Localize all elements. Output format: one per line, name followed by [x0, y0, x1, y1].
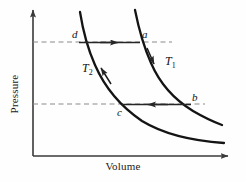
- diagram-canvas: [0, 0, 246, 182]
- state-point-label-d: d: [72, 28, 78, 40]
- y-axis-label: Pressure: [8, 54, 20, 134]
- isotherm-label-T2-subscript: 2: [89, 68, 93, 77]
- x-axis-label: Volume: [0, 160, 246, 172]
- isotherm-label-T1-text: T: [165, 54, 172, 68]
- state-point-label-a: a: [142, 28, 148, 40]
- isotherm-label-T1-subscript: 1: [172, 61, 176, 70]
- state-point-label-c: c: [117, 106, 122, 118]
- isotherm-curve-T2: [80, 12, 224, 143]
- pressure-volume-diagram: Volume Pressure d a b c T1 T2: [0, 0, 246, 182]
- isotherm-label-T2: T2: [82, 61, 93, 77]
- isotherm-label-T2-text: T: [82, 61, 89, 75]
- isotherm-curve-T1: [135, 10, 222, 125]
- isotherm-label-T1: T1: [165, 54, 176, 70]
- state-point-label-b: b: [192, 91, 198, 103]
